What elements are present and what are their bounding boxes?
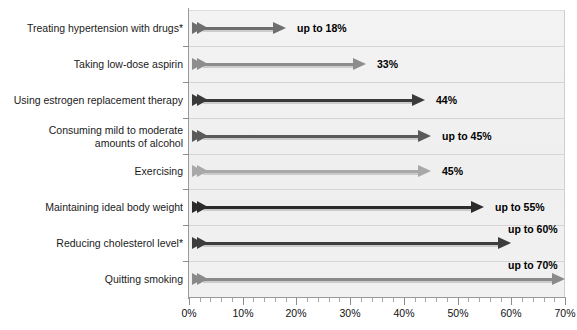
x-tick-minor [329,298,330,302]
x-tick-minor [372,298,373,302]
category-label: Quitting smoking [105,273,183,286]
x-tick-major [296,298,297,305]
x-tick-minor [200,298,201,302]
category-label: Maintaining ideal body weight [45,201,183,214]
x-tick-minor [533,298,534,302]
x-tick-minor [554,298,555,302]
category-label: Reducing cholesterol level* [56,237,183,250]
x-axis-line [188,297,566,298]
x-tick-major [511,298,512,305]
x-tick-minor [361,298,362,302]
arrow-bar [192,200,484,214]
x-tick-major [243,298,244,305]
x-tick-minor [468,298,469,302]
value-label: up to 70% [508,259,558,271]
x-tick-major [458,298,459,305]
y-tick [183,154,189,155]
gridline [189,189,565,190]
category-label: Using estrogen replacement therapy [14,94,183,107]
x-tick-minor [275,298,276,302]
value-label: up to 60% [508,223,558,235]
x-tick-label: 70% [554,307,575,319]
x-tick-label: 50% [447,307,468,319]
arrow-bar [192,272,565,286]
gridline [189,82,565,83]
gridline [189,118,565,119]
value-label: up to 55% [495,201,545,213]
x-tick-label: 40% [393,307,414,319]
arrow-bar [192,236,511,250]
value-label: up to 45% [442,130,492,142]
x-tick-minor [490,298,491,302]
value-label: 33% [377,58,398,70]
x-tick-minor [522,298,523,302]
x-tick-minor [221,298,222,302]
x-tick-minor [436,298,437,302]
gridline [189,154,565,155]
x-tick-minor [447,298,448,302]
x-tick-minor [544,298,545,302]
x-tick-major [350,298,351,305]
arrow-bar [192,21,286,35]
x-tick-minor [210,298,211,302]
arrow-bar [192,129,431,143]
x-tick-minor [286,298,287,302]
x-tick-minor [318,298,319,302]
x-tick-minor [425,298,426,302]
x-tick-minor [232,298,233,302]
x-tick-label: 20% [285,307,306,319]
x-tick-minor [501,298,502,302]
y-tick [183,118,189,119]
x-tick-minor [307,298,308,302]
y-tick [183,82,189,83]
x-tick-label: 60% [500,307,521,319]
x-tick-minor [382,298,383,302]
x-tick-label: 30% [339,307,360,319]
x-tick-major [404,298,405,305]
arrow-bar [192,164,431,178]
category-label: Consuming mild to moderate amounts of al… [49,124,183,149]
arrow-bar [192,57,366,71]
y-tick [183,225,189,226]
value-label: 44% [436,94,457,106]
category-label: Treating hypertension with drugs* [27,22,183,35]
x-tick-label: 10% [232,307,253,319]
x-tick-minor [393,298,394,302]
x-tick-minor [339,298,340,302]
arrow-chart: 0%10%20%30%40%50%60%70% Treating hyperte… [0,0,577,330]
x-tick-label: 0% [181,307,196,319]
x-tick-major [189,298,190,305]
category-label: Taking low-dose aspirin [74,58,183,71]
x-tick-minor [415,298,416,302]
value-label: up to 18% [297,22,347,34]
x-tick-minor [479,298,480,302]
x-tick-major [565,298,566,305]
arrow-bar [192,93,425,107]
y-tick [183,46,189,47]
category-label: Exercising [135,165,183,178]
x-tick-minor [253,298,254,302]
value-label: 45% [442,165,463,177]
x-tick-minor [264,298,265,302]
gridline [189,46,565,47]
y-tick [183,189,189,190]
y-tick [183,261,189,262]
